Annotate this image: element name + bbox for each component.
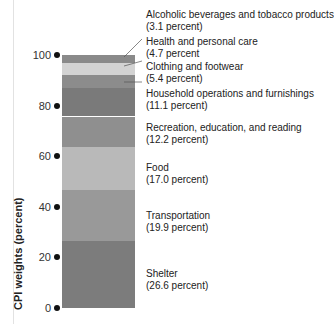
label-food: Food (17.0 percent) (146, 162, 208, 186)
label-clothing: Clothing and footwear (5.4 percent) (146, 61, 243, 85)
label-transportation: Transportation (19.9 percent) (146, 210, 210, 234)
label-shelter: Shelter (26.6 percent) (146, 268, 208, 292)
label-alcohol: Alcoholic beverages and tobacco products… (146, 9, 334, 33)
label-household: Household operations and furnishings (11… (146, 88, 314, 112)
label-recreation: Recreation, education, and reading (12.2… (146, 122, 302, 146)
label-health: Health and personal care (4.7 percent (146, 36, 258, 60)
